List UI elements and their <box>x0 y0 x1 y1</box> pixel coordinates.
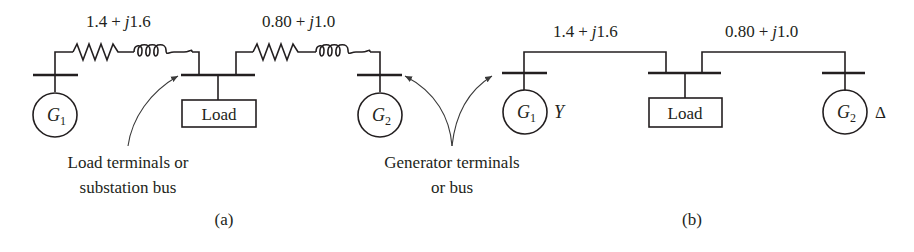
generator-1-label: G1 <box>517 102 536 125</box>
generator-annotation: Generator terminals or bus <box>384 76 519 197</box>
inductor-icon <box>316 45 370 56</box>
annotation-load-line1: Load terminals or <box>68 153 189 172</box>
wire <box>370 52 380 92</box>
line-impedance-1 <box>524 52 666 90</box>
panel-a-caption: (a) <box>215 210 234 229</box>
wire <box>192 52 199 75</box>
impedance-label-a2: 0.80+j1.0 <box>262 12 335 31</box>
inductor-icon <box>134 45 192 56</box>
generator-1-label: G1 <box>47 105 66 128</box>
generator-2-label: G2 <box>372 105 391 128</box>
wye-connection-label: Y <box>554 102 566 122</box>
panel-b-caption: (b) <box>682 210 702 229</box>
annotation-generator-line2: or bus <box>431 178 473 197</box>
impedance-label-b2: 0.80+j1.0 <box>725 22 798 41</box>
delta-connection-label: Δ <box>875 103 886 122</box>
annotation-arrow-generator-b <box>452 76 492 146</box>
resistor-icon <box>253 44 316 60</box>
panel-b: 1.4+j1.6 0.80+j1.0 Load G1 Y G2 Δ (b) <box>502 22 886 229</box>
line-impedance-2 <box>702 52 845 91</box>
panel-a: 1.4+j1.6 0.80+j1.0 Load G1 G2 Load termi <box>33 12 402 229</box>
load-label: Load <box>668 104 703 123</box>
one-line-diagram: 1.4+j1.6 0.80+j1.0 Load G1 G2 Load termi <box>0 0 914 252</box>
impedance-label-b1: 1.4+j1.6 <box>553 22 618 41</box>
resistor-icon <box>73 44 134 60</box>
load-label: Load <box>202 105 237 124</box>
annotation-generator-line1: Generator terminals <box>384 153 519 172</box>
annotation-arrow-generator-a <box>405 76 452 146</box>
generator-2-label: G2 <box>837 102 856 125</box>
impedance-label-a1: 1.4+j1.6 <box>86 12 151 31</box>
annotation-load-line2: substation bus <box>80 178 177 197</box>
wire <box>236 52 253 75</box>
wire <box>55 52 73 92</box>
annotation-arrow-load <box>128 76 178 146</box>
